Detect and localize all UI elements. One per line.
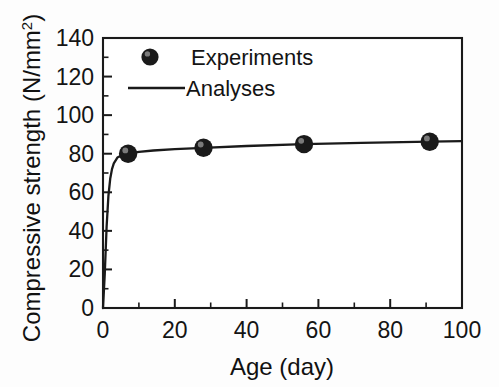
data-point bbox=[295, 135, 313, 153]
legend-label-analyses: Analyses bbox=[186, 76, 275, 101]
y-axis-title-suffix: ) bbox=[18, 14, 45, 22]
y-tick-label: 140 bbox=[56, 25, 94, 51]
y-tick-label: 100 bbox=[56, 102, 94, 128]
x-tick-label: 60 bbox=[306, 317, 332, 343]
y-tick-label: 40 bbox=[68, 218, 94, 244]
y-axis-title-main: Compressive strength (N/mm bbox=[18, 30, 45, 342]
y-axis-title: Compressive strength (N/mm2) bbox=[18, 14, 45, 342]
data-point bbox=[194, 139, 212, 157]
x-axis-title: Age (day) bbox=[230, 353, 334, 380]
y-tick-label: 80 bbox=[68, 141, 94, 167]
y-axis-tick-labels: 0 20 40 60 80 100 120 140 bbox=[56, 25, 94, 321]
svg-text:Compressive strength (N/mm2): Compressive strength (N/mm2) bbox=[18, 14, 45, 342]
legend-label-experiments: Experiments bbox=[191, 45, 313, 70]
plot-area-background bbox=[103, 38, 462, 308]
y-tick-label: 120 bbox=[56, 64, 94, 90]
compressive-strength-vs-age-chart: 0 20 40 60 80 100 120 140 0 20 40 60 80 … bbox=[0, 0, 499, 387]
data-point bbox=[119, 145, 137, 163]
y-tick-label: 20 bbox=[68, 256, 94, 282]
y-tick-label: 0 bbox=[81, 295, 94, 321]
x-tick-label: 0 bbox=[97, 317, 110, 343]
x-tick-label: 100 bbox=[443, 317, 481, 343]
x-tick-label: 40 bbox=[234, 317, 260, 343]
data-point bbox=[421, 133, 439, 151]
x-axis-tick-labels: 0 20 40 60 80 100 bbox=[97, 317, 482, 343]
chart-figure: 0 20 40 60 80 100 120 140 0 20 40 60 80 … bbox=[0, 0, 499, 387]
y-axis-title-superscript: 2 bbox=[18, 22, 35, 30]
x-tick-label: 20 bbox=[162, 317, 188, 343]
x-tick-label: 80 bbox=[377, 317, 403, 343]
y-tick-label: 60 bbox=[68, 179, 94, 205]
filled-circle-icon bbox=[141, 48, 158, 65]
